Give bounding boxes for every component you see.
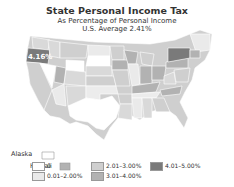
legend-4: 4.01–5.00% [150,162,200,171]
legend-1: 0.01–2.00% [32,172,82,181]
legend-3: 3.01–4.00% [91,172,141,181]
legend-2: 2.01–3.00% [91,162,141,171]
alaska-label: Alaska [11,150,32,158]
oregon-callout: 4.16% [28,53,52,61]
legend-0: 0 [32,162,51,171]
us-map [0,0,234,187]
